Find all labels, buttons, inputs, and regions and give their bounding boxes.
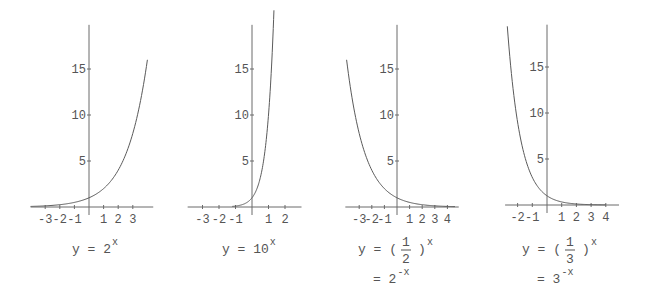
x-tick-label: -2 xyxy=(510,211,524,225)
y-tick-label: 5 xyxy=(387,155,394,169)
x-tick-label: -1 xyxy=(228,213,242,227)
y-tick-label: 5 xyxy=(537,153,544,167)
exponent: x xyxy=(427,237,433,248)
x-tick-label: 2 xyxy=(419,213,426,227)
equation-caption: y = 10x xyxy=(222,237,276,257)
exponent-line-2: -x xyxy=(561,267,573,278)
equation-text: y = 10 xyxy=(222,242,269,257)
fraction-numerator: 1 xyxy=(402,235,410,250)
y-tick-label: 10 xyxy=(72,109,86,123)
x-tick-label: -3 xyxy=(195,213,209,227)
x-tick-label: 3 xyxy=(129,213,136,227)
y-tick-label: 15 xyxy=(380,63,394,77)
y-tick-label: 5 xyxy=(242,155,249,169)
fraction-denominator: 2 xyxy=(402,252,410,267)
exponent: x xyxy=(270,237,276,248)
x-tick-label: 1 xyxy=(100,213,107,227)
y-tick-label: 10 xyxy=(380,109,394,123)
y-tick-label: 15 xyxy=(72,63,86,77)
equation-caption: y = (13)x= 3-x xyxy=(522,235,597,287)
x-tick-label: 3 xyxy=(431,213,438,227)
equation-line-2: = 2 xyxy=(373,272,396,287)
equation-lhs: y = ( xyxy=(358,242,397,257)
y-tick-label: 15 xyxy=(530,61,544,75)
exponent: x xyxy=(112,237,118,248)
exponent-line-2: -x xyxy=(397,267,409,278)
y-tick-label: 10 xyxy=(235,109,249,123)
equation-text: y = 2 xyxy=(72,242,111,257)
fraction-denominator: 3 xyxy=(566,252,574,267)
equation-line-2: = 3 xyxy=(537,272,560,287)
fraction-numerator: 1 xyxy=(566,235,574,250)
x-tick-label: 1 xyxy=(265,213,272,227)
function-curve xyxy=(507,26,605,205)
y-tick-label: 15 xyxy=(235,63,249,77)
x-tick-label: 4 xyxy=(602,211,609,225)
x-tick-label: 3 xyxy=(587,211,594,225)
equation-caption: y = (12)x= 2-x xyxy=(358,235,433,287)
chart-half-to-the-x: -3-2-1123451015y = (12)x= 2-x xyxy=(345,25,458,287)
chart-10-to-the-x: -3-2-11251015y = 10x xyxy=(188,10,302,257)
x-tick-label: 1 xyxy=(406,213,413,227)
x-tick-label: -1 xyxy=(67,213,81,227)
x-tick-label: -2 xyxy=(212,213,226,227)
exponential-functions-figure: -3-2-112351015y = 2x -3-2-11251015y = 10… xyxy=(0,0,648,303)
x-tick-label: 2 xyxy=(115,213,122,227)
close-paren: ) xyxy=(418,242,426,257)
x-tick-label: -3 xyxy=(38,213,52,227)
function-curve xyxy=(347,60,455,207)
equation-lhs: y = ( xyxy=(522,242,561,257)
figure-canvas: -3-2-112351015y = 2x -3-2-11251015y = 10… xyxy=(0,0,648,303)
x-tick-label: -1 xyxy=(377,213,391,227)
y-tick-label: 10 xyxy=(530,107,544,121)
x-tick-label: 4 xyxy=(444,213,451,227)
chart-2-to-the-x: -3-2-112351015y = 2x xyxy=(31,25,154,257)
chart-third-to-the-x: -2-1123451015y = (13)x= 3-x xyxy=(505,25,619,287)
x-tick-label: 2 xyxy=(281,213,288,227)
y-tick-label: 5 xyxy=(79,155,86,169)
x-tick-label: 1 xyxy=(558,211,565,225)
x-tick-label: 2 xyxy=(573,211,580,225)
x-tick-label: -2 xyxy=(53,213,67,227)
x-tick-label: -1 xyxy=(525,211,539,225)
exponent: x xyxy=(591,237,597,248)
equation-caption: y = 2x xyxy=(72,237,118,257)
close-paren: ) xyxy=(582,242,590,257)
